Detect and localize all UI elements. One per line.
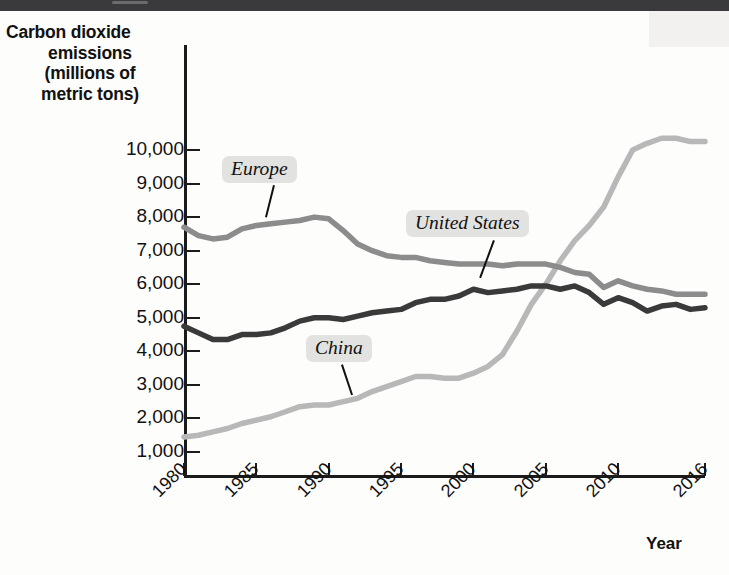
united-states-label: United States [406,210,529,237]
china-label: China [306,335,372,362]
chart-plot-area: 10,0009,0008,0007,0006,0005,0004,0003,00… [0,0,729,575]
series-line-china [184,138,705,437]
data-lines [0,0,729,575]
series-line-united-states [184,286,705,340]
europe-label: Europe [222,156,297,183]
